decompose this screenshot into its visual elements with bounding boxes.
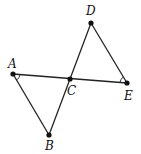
label-c: C [67,84,76,98]
label-a: A [7,57,17,71]
label-d: D [85,4,96,18]
point-d [88,20,93,25]
segment-ab [13,74,49,135]
point-a [10,71,15,76]
label-e: E [123,89,133,103]
segment-de [91,23,127,83]
geometry-diagram: A B C D E [0,0,141,154]
point-e [124,80,129,85]
point-b [46,132,51,137]
angle-mark-e [120,77,123,82]
angle-mark-a [17,75,20,80]
point-c [67,76,72,81]
label-b: B [44,139,54,153]
